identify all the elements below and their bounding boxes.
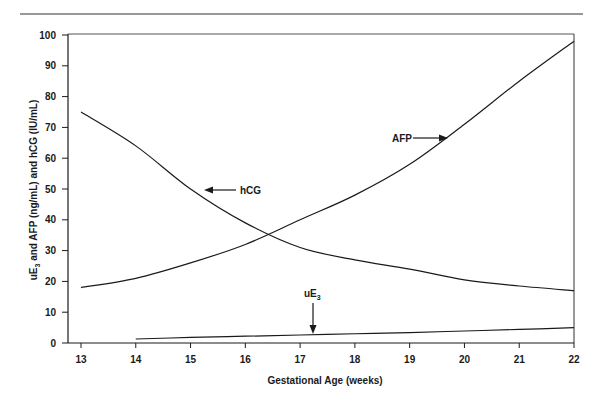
x-tick-label: 16 [240,354,252,365]
x-tick-label: 18 [349,354,361,365]
hcg-annotation: hCG [204,185,261,196]
x-tick-label: 13 [75,354,87,365]
x-tick-label: 22 [568,354,580,365]
arrow-down-icon [310,325,317,334]
afp-annotation: AFP [392,133,448,144]
ue3-label: uE3 [304,288,321,301]
y-tick-label: 60 [45,153,57,164]
afp-label: AFP [392,133,412,144]
series-hcg-line [81,112,574,291]
series-ue3-line [136,328,574,339]
y-tick-label: 80 [45,91,57,102]
y-tick-label: 0 [50,338,56,349]
x-axis: 13141516171819202122 [68,343,580,365]
y-tick-label: 100 [39,30,56,41]
x-tick-label: 14 [130,354,142,365]
y-tick-label: 30 [45,245,57,256]
chart: 0102030405060708090100 13141516171819202… [0,0,612,412]
x-tick-label: 19 [404,354,416,365]
x-tick-label: 15 [185,354,197,365]
x-tick-label: 21 [514,354,526,365]
x-tick-label: 20 [459,354,471,365]
y-axis-title: uE3 and AFP (ng/mL) and hCG (IU/mL) [28,100,41,281]
x-axis-title: Gestational Age (weeks) [267,375,382,386]
y-tick-label: 90 [45,60,57,71]
hcg-label: hCG [240,185,261,196]
y-tick-label: 50 [45,184,57,195]
y-tick-label: 70 [45,122,57,133]
ue3-annotation: uE3 [304,288,321,334]
y-tick-label: 40 [45,214,57,225]
y-tick-label: 20 [45,276,57,287]
series-lines [81,41,574,339]
arrow-left-icon [204,187,213,194]
y-tick-label: 10 [45,307,57,318]
series-afp-line [81,41,574,287]
x-tick-label: 17 [295,354,307,365]
plot-frame [68,34,574,343]
y-axis: 0102030405060708090100 [39,30,68,349]
